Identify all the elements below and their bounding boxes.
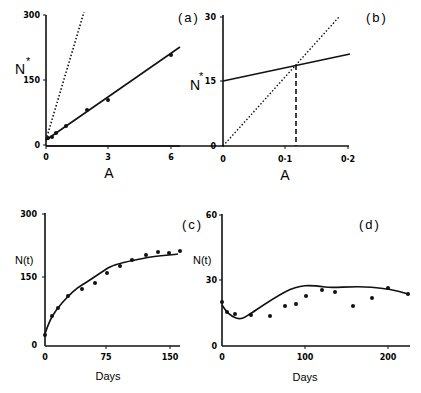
panel-label-a: (a) (178, 10, 200, 25)
panel-b: 30 15 0 0 0·1 0·2 A N * (b) (190, 10, 388, 183)
y-axis-label: N (15, 61, 25, 77)
data-points (43, 249, 182, 337)
panel-label-c: (c) (182, 217, 203, 232)
y-tick-0: 0 (210, 142, 216, 151)
y-tick-60: 60 (206, 211, 218, 220)
x-tick-0: 0 (42, 353, 48, 362)
x-tick-0-2: 0·2 (341, 155, 355, 164)
y-tick-300: 300 (23, 11, 40, 20)
solid-line (223, 54, 350, 81)
panel-a: 300 150 0 0 3 6 A N * (a) (15, 10, 224, 181)
panel-label-b: (b) (366, 10, 388, 25)
x-tick-75: 75 (100, 353, 112, 362)
x-tick-0: 0 (220, 155, 226, 164)
x-tick-0: 0 (219, 353, 225, 362)
y-tick-150: 150 (23, 76, 40, 85)
x-axis-label: Days (292, 371, 318, 383)
y-tick-0: 0 (31, 341, 37, 350)
y-tick-30: 30 (206, 276, 218, 285)
x-tick-0-1: 0·1 (278, 155, 293, 164)
x-tick-0: 0 (43, 153, 49, 162)
y-axis-label-star: * (26, 55, 31, 67)
fit-curve (45, 254, 178, 334)
figure: 300 150 0 0 3 6 A N * (a) 30 15 0 0 0·1 … (0, 0, 421, 393)
x-tick-150: 150 (162, 353, 179, 362)
x-tick-6: 6 (168, 153, 174, 162)
y-tick-30: 30 (205, 13, 217, 22)
x-axis-label: A (104, 165, 114, 181)
x-tick-100: 100 (297, 353, 314, 362)
y-axis-label: N(t) (15, 254, 33, 266)
panel-d: 60 30 0 0 100 200 Days N(t) (d) (193, 211, 410, 383)
y-tick-0: 0 (211, 342, 217, 351)
y-axis-label-star: * (199, 70, 204, 82)
y-tick-0: 0 (34, 141, 40, 150)
x-axis-label: Days (95, 370, 121, 382)
panel-c: 300 150 0 0 75 150 Days N(t) (c) (15, 210, 203, 382)
data-points (220, 286, 410, 318)
y-tick-150: 150 (20, 273, 37, 282)
x-tick-3: 3 (105, 153, 111, 162)
dotted-line (46, 12, 84, 140)
dotted-line (223, 17, 339, 146)
x-tick-200: 200 (380, 353, 397, 362)
y-tick-15: 15 (205, 77, 217, 86)
x-axis-label: A (280, 167, 290, 183)
panel-label-d: (d) (359, 217, 381, 232)
y-tick-300: 300 (20, 210, 37, 219)
y-axis-label: N(t) (193, 254, 211, 266)
